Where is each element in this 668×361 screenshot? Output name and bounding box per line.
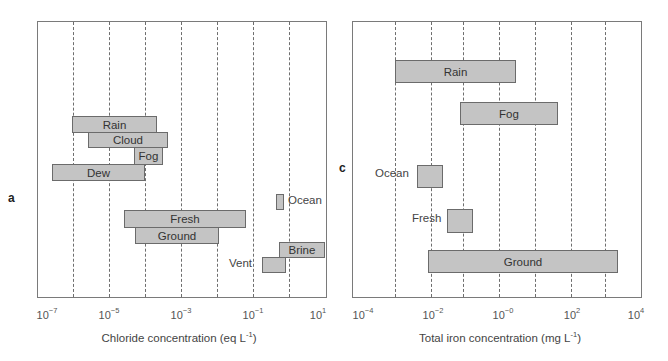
bar-label: Brine — [289, 244, 316, 256]
x-tick: 10−7 — [37, 307, 58, 321]
bar-label: Fresh — [170, 213, 199, 225]
bar-vent — [262, 257, 286, 273]
bar-dew: Dew — [52, 164, 145, 181]
bar-ground: Ground — [135, 227, 219, 244]
bar-label: Rain — [444, 66, 468, 78]
bar-fresh — [447, 209, 473, 233]
chart-panel-chloride: Rain Cloud Fog Dew Fresh Ground Brine — [37, 21, 327, 298]
bar-rain: Rain — [395, 60, 516, 83]
bar-ocean — [417, 165, 443, 188]
gridline — [109, 22, 110, 297]
x-tick: 10−3 — [171, 307, 192, 321]
bar-fog: Fog — [460, 102, 558, 125]
gridline — [253, 22, 254, 297]
gridline — [181, 22, 182, 297]
x-tick: 10−4 — [353, 307, 374, 321]
chart-panel-iron: Rain Fog Ground — [352, 21, 642, 298]
bar-label: Fog — [499, 108, 519, 120]
bar-label: Cloud — [113, 134, 143, 146]
bar-brine: Brine — [279, 242, 325, 258]
bar-label: Ground — [158, 230, 196, 242]
bar-label: Ground — [504, 256, 542, 268]
x-axis-label-chloride: Chloride concentration (eq L-1) — [102, 330, 257, 344]
x-tick: 10−1 — [243, 307, 264, 321]
bar-fog: Fog — [134, 147, 163, 165]
gridline — [73, 22, 74, 297]
label-vent: Vent — [229, 257, 252, 269]
bar-label: Dew — [87, 167, 110, 179]
x-tick: 101 — [310, 307, 326, 321]
bar-label: Rain — [103, 119, 127, 131]
x-tick: 10−5 — [99, 307, 120, 321]
bar-cloud: Cloud — [88, 132, 168, 148]
label-ocean: Ocean — [288, 194, 322, 206]
bar-label: Fog — [139, 150, 159, 162]
x-tick: 10−0 — [493, 307, 514, 321]
x-tick: 104 — [628, 307, 644, 321]
panel-label-a: a — [8, 191, 15, 205]
bar-ground: Ground — [428, 250, 618, 273]
label-fresh: Fresh — [412, 212, 441, 224]
bar-fresh: Fresh — [124, 210, 246, 228]
label-ocean: Ocean — [375, 167, 409, 179]
x-tick: 10−2 — [423, 307, 444, 321]
x-tick: 102 — [564, 307, 580, 321]
gridline — [217, 22, 218, 297]
bar-rain: Rain — [72, 116, 157, 133]
panel-label-c: c — [339, 161, 346, 175]
bar-ocean — [276, 194, 284, 210]
x-axis-label-iron: Total iron concentration (mg L-1) — [419, 330, 581, 344]
